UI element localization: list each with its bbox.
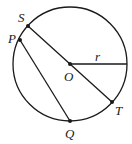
label-s: S xyxy=(18,10,25,25)
label-r: r xyxy=(95,49,101,64)
point-s xyxy=(26,24,30,28)
label-q: Q xyxy=(65,126,75,141)
label-o: O xyxy=(64,69,74,84)
chord-pq xyxy=(20,40,70,121)
point-q xyxy=(68,119,72,123)
circle-diagram: S P O T Q r xyxy=(0,0,132,144)
label-t: T xyxy=(115,103,123,118)
point-t xyxy=(110,100,114,104)
point-o xyxy=(68,62,72,66)
label-p: P xyxy=(7,31,16,46)
point-p xyxy=(18,38,22,42)
